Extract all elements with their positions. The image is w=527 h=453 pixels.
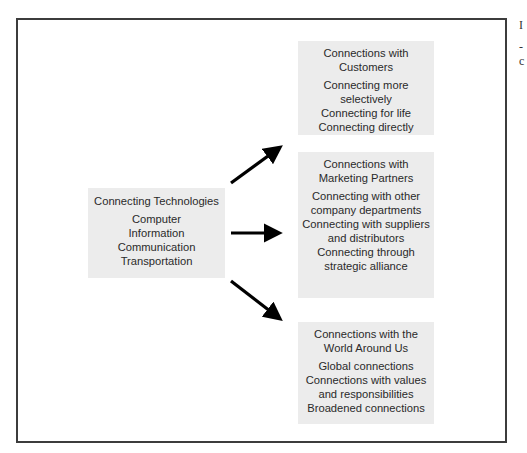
edge-text: I bbox=[519, 18, 523, 33]
edge-text: c bbox=[519, 54, 524, 69]
arrow-up-icon bbox=[231, 148, 279, 183]
arrows-layer bbox=[0, 0, 527, 453]
arrow-down-icon bbox=[231, 281, 279, 318]
edge-text: - bbox=[519, 40, 523, 55]
